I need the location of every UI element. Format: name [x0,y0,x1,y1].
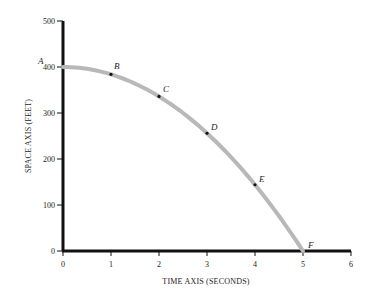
data-point [109,73,112,76]
x-tick-label: 2 [157,260,161,269]
y-tick-label: 0 [51,247,55,256]
x-axis-title: TIME AXIS (SECONDS) [162,277,249,286]
chart: 01234560100200300400500 ABCDEF TIME AXIS… [0,0,381,300]
data-curve [63,67,303,251]
point-label: E [258,174,265,184]
x-tick-label: 0 [61,260,65,269]
x-tick-label: 6 [349,260,353,269]
data-point [157,95,160,98]
data-point [205,132,208,135]
y-axis-title: SPACE AXIS (FEET) [24,99,33,173]
x-tick-label: 4 [253,260,257,269]
x-tick-label: 5 [301,260,305,269]
axes: 01234560100200300400500 [43,17,353,269]
x-tick-label: 3 [205,260,209,269]
y-tick-label: 400 [43,63,55,72]
point-label: C [163,84,170,94]
point-label: A [37,56,44,66]
y-tick-label: 500 [43,17,55,26]
position-curve [63,67,303,251]
data-points: ABCDEF [37,56,314,250]
point-label: D [210,122,218,132]
y-tick-label: 300 [43,109,55,118]
y-tick-label: 100 [43,201,55,210]
data-point [253,183,256,186]
point-label: F [307,240,314,250]
y-tick-label: 200 [43,155,55,164]
point-label: B [114,61,120,71]
x-tick-label: 1 [109,260,113,269]
